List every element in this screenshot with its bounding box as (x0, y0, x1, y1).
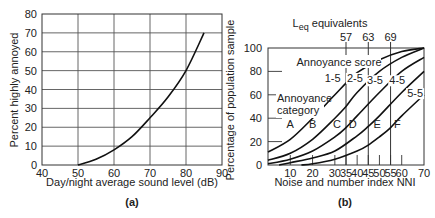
svg-text:0: 0 (256, 159, 262, 171)
svg-text:57: 57 (340, 31, 352, 43)
chart-a-curve (78, 33, 204, 165)
svg-text:C: C (333, 118, 341, 130)
chart-a: 01020304050607080 405060708090 Day/night… (0, 0, 435, 218)
chart-a-grid (42, 14, 222, 165)
chart-a-y-tick-labels: 01020304050607080 (25, 8, 37, 171)
chart-b-y-tick-labels: 020406080100 (244, 42, 262, 171)
svg-text:63: 63 (362, 31, 374, 43)
svg-text:20: 20 (250, 136, 262, 148)
svg-text:1-5: 1-5 (325, 72, 341, 84)
svg-text:60: 60 (25, 46, 37, 58)
chart-a-y-axis-label: Percent highly annoyed (8, 33, 20, 148)
chart-a-x-axis-label: Day/night average sound level (dB) (46, 176, 218, 188)
svg-text:2-5: 2-5 (347, 72, 363, 84)
svg-text:4-5: 4-5 (389, 74, 405, 86)
chart-b-leq-tick-labels: 576369 (340, 31, 397, 43)
svg-text:40: 40 (250, 112, 262, 124)
svg-text:Annoyance: Annoyance (277, 92, 332, 104)
svg-text:E: E (374, 118, 381, 130)
svg-text:B: B (309, 118, 316, 130)
svg-text:A: A (287, 118, 295, 130)
chart-b-panel-label: (b) (338, 196, 352, 208)
svg-text:69: 69 (384, 31, 396, 43)
svg-text:80: 80 (25, 8, 37, 20)
svg-text:70: 70 (25, 27, 37, 39)
svg-text:category: category (277, 104, 320, 116)
svg-text:70: 70 (418, 167, 430, 179)
svg-text:F: F (394, 118, 401, 130)
svg-text:5-5: 5-5 (407, 87, 423, 99)
svg-text:Annoyance score: Annoyance score (297, 56, 382, 68)
svg-text:30: 30 (25, 102, 37, 114)
svg-text:3-5: 3-5 (367, 74, 383, 86)
svg-text:60: 60 (250, 89, 262, 101)
chart-b-leq-title: Leq equivalents (293, 17, 368, 32)
svg-text:100: 100 (244, 42, 262, 54)
chart-a-panel-label: (a) (125, 196, 139, 208)
svg-text:10: 10 (25, 140, 37, 152)
svg-text:20: 20 (25, 121, 37, 133)
chart-b-x-axis-label: Noise and number index NNI (274, 176, 415, 188)
svg-text:80: 80 (250, 65, 262, 77)
svg-text:50: 50 (25, 65, 37, 77)
svg-text:40: 40 (25, 84, 37, 96)
svg-text:D: D (349, 118, 357, 130)
chart-b-y-axis-label: Percentage of population sample (224, 20, 236, 181)
